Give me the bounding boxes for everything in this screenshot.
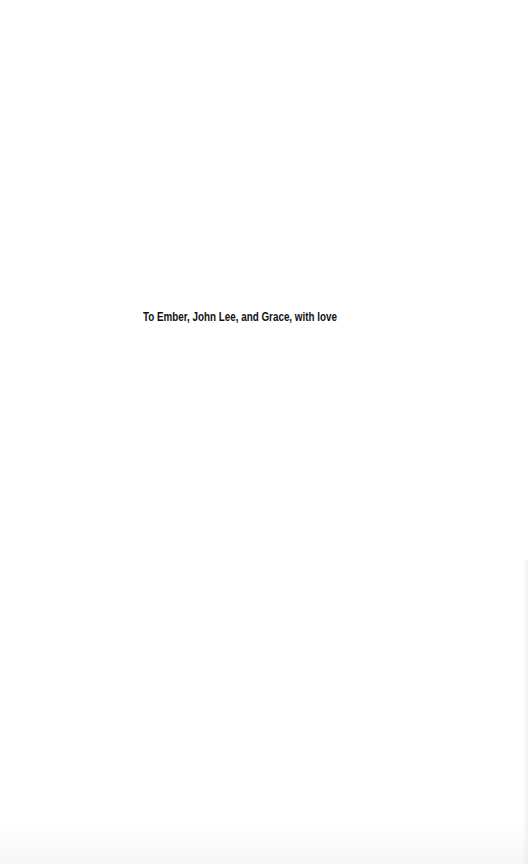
dedication-page: To Ember, John Lee, and Grace, with love (0, 0, 528, 864)
dedication-text: To Ember, John Lee, and Grace, with love (143, 309, 337, 325)
scan-noise-bottom (0, 824, 528, 864)
scan-edge-right (522, 560, 528, 864)
